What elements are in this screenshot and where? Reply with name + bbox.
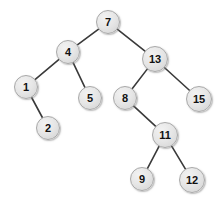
tree-node-label: 8 bbox=[122, 92, 128, 103]
tree-node-7[interactable]: 7 bbox=[96, 10, 120, 34]
tree-node-label: 11 bbox=[159, 129, 171, 140]
tree-node-label: 1 bbox=[23, 81, 29, 92]
tree-node-11[interactable]: 11 bbox=[152, 122, 178, 148]
tree-node-4[interactable]: 4 bbox=[56, 40, 80, 64]
tree-node-9[interactable]: 9 bbox=[130, 167, 154, 191]
tree-node-8[interactable]: 8 bbox=[113, 86, 137, 110]
tree-node-1[interactable]: 1 bbox=[14, 75, 38, 99]
tree-node-label: 15 bbox=[193, 93, 205, 104]
tree-node-label: 4 bbox=[65, 46, 71, 57]
tree-node-label: 7 bbox=[105, 16, 111, 27]
tree-node-label: 9 bbox=[139, 173, 145, 184]
tree-node-13[interactable]: 13 bbox=[142, 46, 168, 72]
tree-node-15[interactable]: 15 bbox=[186, 86, 212, 112]
tree-node-5[interactable]: 5 bbox=[78, 86, 102, 110]
binary-search-tree-diagram: 741315815211912 bbox=[0, 0, 222, 203]
tree-node-12[interactable]: 12 bbox=[179, 167, 205, 193]
tree-node-label: 13 bbox=[149, 53, 161, 64]
tree-node-label: 5 bbox=[87, 92, 93, 103]
tree-node-layer: 741315815211912 bbox=[0, 0, 222, 203]
tree-node-label: 2 bbox=[45, 122, 51, 133]
tree-node-2[interactable]: 2 bbox=[36, 116, 60, 140]
tree-node-label: 12 bbox=[186, 174, 198, 185]
